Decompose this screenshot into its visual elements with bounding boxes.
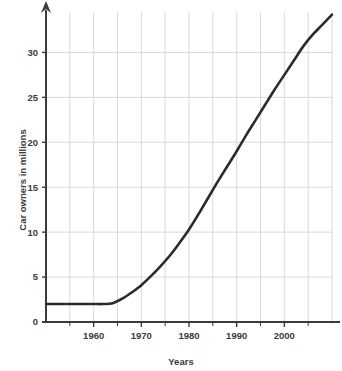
y-axis-tick-label: 0 — [33, 316, 38, 327]
y-axis-tick-label: 10 — [27, 227, 38, 238]
x-axis-tick-label: 1990 — [226, 330, 247, 341]
x-axis-title: Years — [168, 356, 193, 367]
chart-canvas: 051015202530 19601970198019902000 Years … — [0, 0, 342, 371]
y-axis-tick-label: 5 — [33, 271, 39, 282]
y-axis-tick-label: 20 — [27, 137, 38, 148]
line-chart: 051015202530 19601970198019902000 Years … — [0, 0, 342, 371]
y-axis-title: Car owners in millions — [17, 129, 28, 230]
x-axis-tick-label: 1970 — [131, 330, 152, 341]
y-axis-tick-label: 15 — [27, 182, 38, 193]
x-axis-tick-label: 1980 — [178, 330, 199, 341]
x-axis-tick-label: 1960 — [83, 330, 104, 341]
chart-background — [0, 0, 342, 371]
y-axis-tick-label: 30 — [27, 47, 38, 58]
y-axis-tick-label: 25 — [27, 92, 38, 103]
x-axis-tick-label: 2000 — [274, 330, 295, 341]
